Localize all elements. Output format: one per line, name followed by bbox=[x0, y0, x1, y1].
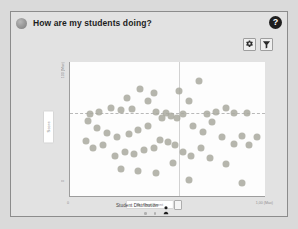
data-point[interactable] bbox=[254, 134, 261, 141]
data-point[interactable] bbox=[185, 176, 192, 183]
card-header: How are my students doing? bbox=[11, 12, 287, 34]
data-point[interactable] bbox=[131, 151, 138, 158]
data-point[interactable] bbox=[223, 104, 230, 111]
data-point[interactable] bbox=[82, 138, 89, 145]
data-point[interactable] bbox=[156, 136, 163, 143]
data-point[interactable] bbox=[213, 108, 220, 115]
data-point[interactable] bbox=[104, 130, 111, 137]
y-axis-label[interactable]: Score bbox=[43, 110, 54, 143]
data-point[interactable] bbox=[141, 147, 148, 154]
data-point[interactable] bbox=[100, 142, 107, 149]
plot-area[interactable] bbox=[69, 62, 265, 197]
chart-toolbar bbox=[243, 38, 273, 51]
settings-button[interactable] bbox=[243, 38, 256, 51]
data-point[interactable] bbox=[176, 88, 183, 95]
data-point[interactable] bbox=[230, 109, 237, 116]
data-point[interactable] bbox=[238, 132, 245, 139]
gear-icon bbox=[245, 40, 254, 49]
data-point[interactable] bbox=[121, 148, 128, 155]
data-point[interactable] bbox=[90, 144, 97, 151]
data-point[interactable] bbox=[209, 119, 216, 126]
y-axis-tick-min: 0 bbox=[61, 180, 65, 182]
data-point[interactable] bbox=[223, 160, 230, 167]
data-point[interactable] bbox=[129, 105, 136, 112]
data-point[interactable] bbox=[238, 179, 245, 186]
app-root: How are my students doing? ? bbox=[0, 0, 298, 229]
avatar-circle-icon bbox=[16, 18, 27, 29]
funnel-icon bbox=[262, 40, 271, 49]
square-swatch-icon[interactable] bbox=[174, 200, 182, 210]
data-point[interactable] bbox=[135, 127, 142, 134]
person-icon[interactable] bbox=[163, 201, 169, 210]
data-point[interactable] bbox=[185, 97, 192, 104]
pagination-dots[interactable] bbox=[144, 212, 156, 215]
data-point[interactable] bbox=[150, 144, 157, 151]
dashboard-card: How are my students doing? ? bbox=[10, 11, 288, 217]
chart-legend: Student Distribution bbox=[11, 200, 287, 210]
data-point[interactable] bbox=[189, 123, 196, 130]
data-point[interactable] bbox=[150, 89, 157, 96]
data-point[interactable] bbox=[137, 85, 144, 92]
data-point[interactable] bbox=[230, 140, 237, 147]
page-title: How are my students doing? bbox=[33, 18, 152, 28]
data-point[interactable] bbox=[246, 142, 253, 149]
data-point[interactable] bbox=[152, 170, 159, 177]
data-point[interactable] bbox=[199, 128, 206, 135]
data-point[interactable] bbox=[145, 123, 152, 130]
data-point[interactable] bbox=[113, 134, 120, 141]
data-point[interactable] bbox=[244, 109, 251, 116]
data-point[interactable] bbox=[195, 77, 202, 84]
data-point[interactable] bbox=[145, 97, 152, 104]
data-point[interactable] bbox=[117, 107, 124, 114]
filter-button[interactable] bbox=[260, 38, 273, 51]
data-point[interactable] bbox=[96, 108, 103, 115]
data-point[interactable] bbox=[164, 139, 171, 146]
y-axis-tick-max: 100 (Max) bbox=[61, 62, 65, 78]
vertical-reference-line bbox=[179, 62, 180, 196]
pagination-dot[interactable] bbox=[144, 212, 147, 215]
data-point[interactable] bbox=[125, 131, 132, 138]
data-point[interactable] bbox=[203, 111, 210, 118]
data-point[interactable] bbox=[152, 108, 159, 115]
data-point[interactable] bbox=[219, 134, 226, 141]
data-point[interactable] bbox=[117, 166, 124, 173]
data-point[interactable] bbox=[111, 152, 118, 159]
data-point[interactable] bbox=[207, 155, 214, 162]
data-point[interactable] bbox=[187, 152, 194, 159]
data-point[interactable] bbox=[197, 144, 204, 151]
data-point[interactable] bbox=[170, 159, 177, 166]
legend-label: Student Distribution bbox=[116, 203, 158, 208]
data-point[interactable] bbox=[180, 148, 187, 155]
data-point[interactable] bbox=[135, 167, 142, 174]
data-point[interactable] bbox=[123, 95, 130, 102]
data-point[interactable] bbox=[84, 117, 91, 124]
data-point[interactable] bbox=[158, 115, 165, 122]
data-point[interactable] bbox=[180, 111, 187, 118]
data-point[interactable] bbox=[94, 124, 101, 131]
scatter-chart: 100 (Max) 0 Score 0 1,00 (Max) Time Spen… bbox=[17, 54, 283, 212]
data-point[interactable] bbox=[107, 104, 114, 111]
help-icon[interactable]: ? bbox=[269, 16, 282, 29]
pagination-dot[interactable] bbox=[154, 212, 157, 215]
data-point[interactable] bbox=[172, 142, 179, 149]
